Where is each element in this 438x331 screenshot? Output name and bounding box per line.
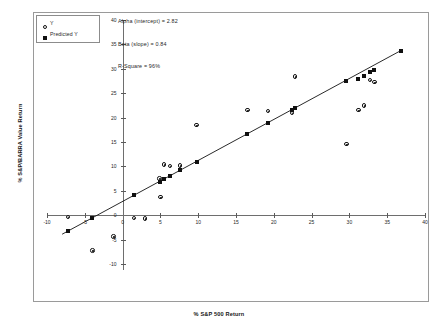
y-tick-label: 20 xyxy=(101,115,117,121)
x-tick xyxy=(349,213,350,218)
data-point-observed xyxy=(194,123,198,127)
data-point-predicted xyxy=(195,160,199,164)
data-point-predicted xyxy=(266,121,270,125)
data-point-predicted xyxy=(368,70,372,74)
x-tick xyxy=(274,213,275,218)
y-tick xyxy=(121,240,126,241)
x-tick-label: 35 xyxy=(377,219,397,225)
y-tick-label: 5 xyxy=(101,188,117,194)
x-tick-label: 40 xyxy=(415,219,435,225)
legend-label-observed: Y xyxy=(50,18,54,29)
x-tick xyxy=(160,213,161,218)
data-point-observed xyxy=(293,74,297,78)
data-point-predicted xyxy=(168,174,172,178)
x-tick-label: 25 xyxy=(302,219,322,225)
data-point-observed xyxy=(90,248,94,252)
data-point-predicted xyxy=(158,180,162,184)
data-point-observed xyxy=(162,162,166,166)
x-tick-label: 15 xyxy=(226,219,246,225)
y-tick-label: 15 xyxy=(101,139,117,145)
y-tick-label: 25 xyxy=(101,90,117,96)
data-point-observed xyxy=(178,163,182,167)
x-tick xyxy=(312,213,313,218)
x-tick xyxy=(198,213,199,218)
y-tick xyxy=(121,142,126,143)
data-point-observed xyxy=(111,234,115,238)
data-point-predicted xyxy=(66,229,70,233)
open-circle-icon xyxy=(40,18,49,29)
data-point-predicted xyxy=(132,193,136,197)
data-point-predicted xyxy=(372,68,376,72)
filled-square-icon xyxy=(40,29,49,40)
y-axis-line xyxy=(123,20,124,270)
y-tick xyxy=(121,118,126,119)
y-axis-title: % S&P/BARRA Value Return xyxy=(17,53,23,233)
y-tick-label: 0 xyxy=(101,212,117,218)
data-point-predicted xyxy=(399,49,403,53)
data-point-predicted xyxy=(362,74,366,78)
legend-item-predicted[interactable]: Predicted Y xyxy=(40,29,96,40)
x-tick xyxy=(236,213,237,218)
data-point-observed xyxy=(362,103,366,107)
x-tick-label: 5 xyxy=(150,219,170,225)
annotation-r-square: R-Square = 96% xyxy=(118,63,160,69)
y-tick-label: -10 xyxy=(101,261,117,267)
data-point-observed xyxy=(266,109,270,113)
y-tick-label: 10 xyxy=(101,163,117,169)
data-point-observed xyxy=(245,108,249,112)
chart-legend[interactable]: Y Predicted Y xyxy=(36,15,100,43)
x-axis-title: % S&P 500 Return xyxy=(0,311,438,317)
data-point-observed xyxy=(344,142,348,146)
x-tick-label: -10 xyxy=(37,219,57,225)
x-tick xyxy=(47,213,48,218)
x-tick xyxy=(425,213,426,218)
x-tick-label: 20 xyxy=(264,219,284,225)
y-tick xyxy=(121,264,126,265)
data-point-observed xyxy=(372,80,376,84)
plot-frame xyxy=(33,12,429,302)
y-tick xyxy=(121,191,126,192)
data-point-predicted xyxy=(356,77,360,81)
legend-item-observed[interactable]: Y xyxy=(40,18,96,29)
data-point-predicted xyxy=(344,79,348,83)
annotation-alpha: Alpha (intercept) = 2.82 xyxy=(118,18,178,24)
y-tick xyxy=(121,93,126,94)
x-tick xyxy=(387,213,388,218)
y-tick xyxy=(121,166,126,167)
data-point-observed xyxy=(356,108,360,112)
y-tick-label: 30 xyxy=(101,66,117,72)
data-point-observed xyxy=(158,195,162,199)
y-tick-label: 35 xyxy=(101,41,117,47)
data-point-predicted xyxy=(293,106,297,110)
data-point-predicted xyxy=(178,168,182,172)
y-tick-label: 40 xyxy=(101,17,117,23)
scatter-chart: -10-50510152025303540-10-505101520253035… xyxy=(0,0,438,331)
data-point-predicted xyxy=(245,132,249,136)
x-tick xyxy=(85,213,86,218)
x-tick-label: 10 xyxy=(188,219,208,225)
data-point-predicted xyxy=(90,216,94,220)
data-point-predicted xyxy=(162,177,166,181)
legend-label-predicted: Predicted Y xyxy=(50,29,78,40)
x-tick-label: 0 xyxy=(113,219,133,225)
annotation-beta: Beta (slope) = 0.84 xyxy=(118,41,167,47)
x-tick-label: 30 xyxy=(339,219,359,225)
